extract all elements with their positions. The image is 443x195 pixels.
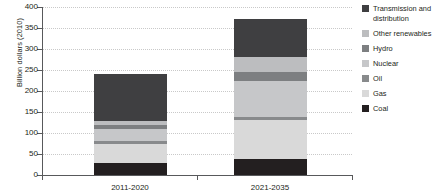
legend-item-transmission-and-distribution[interactable]: Transmission and distribution (362, 4, 443, 23)
bar-segment-other-renewables[interactable] (234, 57, 307, 72)
y-axis-tick-label: 350 (12, 24, 38, 32)
legend-item-hydro[interactable]: Hydro (362, 44, 443, 54)
x-axis-tick (352, 175, 353, 180)
chart-container: Billion dollars (2010) 2011-20202021-203… (0, 0, 443, 195)
legend-item-gas[interactable]: Gas (362, 89, 443, 99)
bar-segment-transmission-and-distribution[interactable] (94, 74, 167, 121)
legend-swatch-icon (362, 5, 369, 12)
legend-item-label: Other renewables (373, 29, 431, 39)
plot-area: 2011-20202021-2035 (42, 7, 352, 175)
legend-item-nuclear[interactable]: Nuclear (362, 59, 443, 69)
legend-swatch-icon (362, 105, 369, 112)
legend-swatch-icon (362, 45, 369, 52)
legend-swatch-icon (362, 30, 369, 37)
y-axis-tick-label: 400 (12, 3, 38, 11)
bar-segment-coal[interactable] (94, 163, 167, 175)
bar-segment-nuclear[interactable] (94, 129, 167, 141)
bar-segment-nuclear[interactable] (234, 81, 307, 118)
bar-segment-hydro[interactable] (234, 72, 307, 80)
bar-segment-coal[interactable] (234, 159, 307, 175)
legend-swatch-icon (362, 75, 369, 82)
x-axis-tick (197, 175, 198, 180)
y-axis-tick-label: 300 (12, 45, 38, 53)
x-axis-tick (42, 175, 43, 180)
legend-item-label: Oil (373, 74, 382, 84)
y-axis-tick-label: 100 (12, 129, 38, 137)
bar-segment-transmission-and-distribution[interactable] (234, 19, 307, 58)
x-axis-tick-label: 2011-2020 (70, 183, 190, 192)
legend-item-coal[interactable]: Coal (362, 104, 443, 114)
legend-swatch-icon (362, 60, 369, 67)
bar-segment-gas[interactable] (94, 144, 167, 164)
gridline (43, 7, 352, 8)
bar-segment-gas[interactable] (234, 120, 307, 159)
y-axis-tick-label: 150 (12, 108, 38, 116)
legend-item-other-renewables[interactable]: Other renewables (362, 29, 443, 39)
y-axis-tick-label: 250 (12, 66, 38, 74)
chart-legend: Transmission and distributionOther renew… (362, 4, 443, 119)
legend-item-oil[interactable]: Oil (362, 74, 443, 84)
x-axis-tick-label: 2021-2035 (210, 183, 330, 192)
bar-2021-2035[interactable] (234, 19, 307, 175)
bar-2011-2020[interactable] (94, 74, 167, 175)
legend-item-label: Transmission and distribution (373, 4, 443, 23)
y-axis-tick-label: 0 (12, 171, 38, 179)
y-axis-tick-label: 200 (12, 87, 38, 95)
legend-item-label: Nuclear (373, 59, 398, 69)
y-axis-tick-label: 50 (12, 150, 38, 158)
legend-item-label: Gas (373, 89, 387, 99)
legend-item-label: Coal (373, 104, 388, 114)
legend-swatch-icon (362, 90, 369, 97)
legend-item-label: Hydro (373, 44, 393, 54)
